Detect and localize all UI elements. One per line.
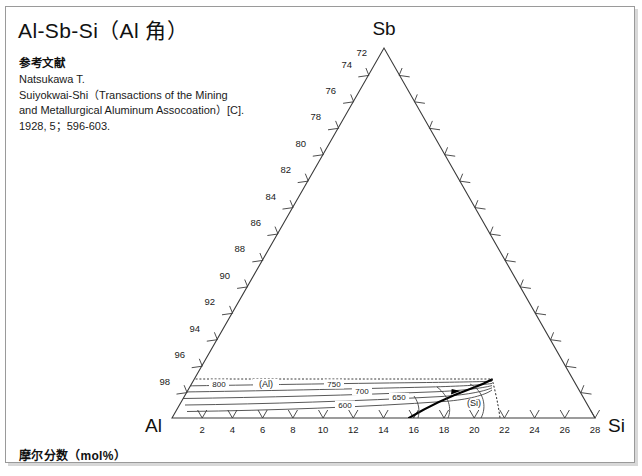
tick-label: 92 [204,296,215,307]
phase-label-al: (Al) [259,379,273,389]
tick-label: 20 [469,424,480,435]
left-axis-ticks [177,68,369,394]
isotherm-label: 700 [355,387,369,396]
tick-label: 24 [529,424,540,435]
tick-label: 82 [280,164,291,175]
tick-label: 88 [234,243,245,254]
tick-label: 98 [159,376,170,387]
si-field-dotted-boundary [492,379,500,418]
vertex-label-si: Si [608,415,625,436]
tick-label: 72 [356,47,367,58]
isotherm-label: 800 [212,380,226,389]
tick-label: 10 [318,424,329,435]
bottom-axis-ticks [198,410,600,418]
tick-label: 94 [189,323,200,334]
tick-label: 4 [230,424,235,435]
tick-label: 80 [295,138,306,149]
tick-label: 78 [310,111,321,122]
tick-label: 16 [408,424,419,435]
tick-label: 2 [200,424,205,435]
left-axis-tick-labels: 98 96 94 92 90 88 86 84 82 80 78 76 74 7… [159,47,367,387]
isotherm-label: 750 [327,380,341,389]
vertex-label-al: Al [145,415,162,436]
tick-label: 84 [265,191,276,202]
bottom-axis-tick-labels: 2 4 6 8 10 12 14 16 18 20 22 24 26 28 [200,424,601,435]
isotherm-label: 600 [338,401,352,410]
ternary-diagram: 98 96 94 92 90 88 86 84 82 80 78 76 74 7… [0,0,642,476]
tick-label: 6 [260,424,265,435]
screenshot-root: Al-Sb-Si（Al 角） 参考文献 Natsukawa T. Suiyokw… [0,0,642,476]
isotherm-label: 650 [392,393,406,402]
tick-label: 96 [174,349,185,360]
tick-label: 26 [560,424,571,435]
triangle-outline [172,48,595,418]
tick-label: 22 [499,424,510,435]
right-axis-ticks [399,68,591,394]
phase-label-si: (Si) [467,398,481,408]
vertex-label-sb: Sb [372,18,395,39]
tick-label: 74 [341,59,352,70]
tick-label: 28 [590,424,601,435]
tick-label: 90 [219,270,230,281]
tick-label: 14 [378,424,389,435]
tick-label: 86 [250,217,261,228]
tick-label: 8 [290,424,295,435]
tick-label: 76 [325,85,336,96]
tick-label: 12 [348,424,359,435]
tick-label: 18 [439,424,450,435]
